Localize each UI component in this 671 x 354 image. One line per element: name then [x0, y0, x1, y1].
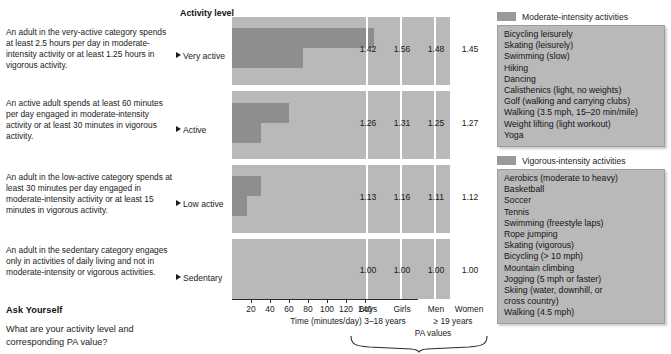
pa-value-low-active-men: 1.11	[423, 192, 449, 202]
list-item: Hiking	[504, 63, 659, 74]
pa-value-active-boys: 1.26	[355, 118, 381, 128]
pa-column-header-women: Women	[452, 304, 486, 314]
legend-moderate: Moderate-intensity activities	[497, 11, 628, 22]
activity-level-label: Low active	[183, 199, 224, 209]
figure-root: An adult in the very-active category spe…	[0, 0, 671, 354]
list-item: Walking (3.5 mph, 15–20 min/mile)	[504, 107, 659, 118]
pa-values-brace	[349, 335, 489, 353]
x-axis-line	[232, 299, 418, 300]
chart-band-very-active	[232, 17, 450, 85]
bar-vigorous-active	[232, 123, 261, 143]
x-axis-tick	[346, 299, 347, 303]
list-item: Swimming (slow)	[504, 51, 659, 62]
pa-group-header-youth: 3–18 years	[351, 316, 419, 326]
pa-column-header-girls: Girls	[385, 304, 419, 314]
description-very-active: An adult in the very-active category spe…	[6, 27, 174, 71]
list-item: Skating (leisurely)	[504, 40, 659, 51]
x-axis-tick	[308, 299, 309, 303]
description-sedentary: An adult in the sedentary category engag…	[6, 245, 174, 278]
list-item: cross country)	[504, 296, 659, 307]
list-item: Golf (walking and carrying clubs)	[504, 96, 659, 107]
pa-value-sedentary-girls: 1.00	[389, 265, 415, 275]
list-item: Skating (vigorous)	[504, 240, 659, 251]
triangle-right-icon	[176, 274, 181, 280]
pa-value-active-girls: 1.31	[389, 118, 415, 128]
pa-column-header-men: Men	[419, 304, 453, 314]
list-item: Walking (4.5 mph)	[504, 307, 659, 318]
pa-group-header-adult: ≥ 19 years	[419, 316, 487, 326]
activity-level-label: Very active	[183, 51, 225, 61]
pa-value-low-active-boys: 1.13	[355, 192, 381, 202]
legend-swatch-vigorous-icon	[497, 156, 516, 165]
pa-value-active-men: 1.25	[423, 118, 449, 128]
x-axis-tick	[270, 299, 271, 303]
list-item: Basketball	[504, 184, 659, 195]
description-low-active-text: An adult in the low-active category spen…	[6, 172, 174, 216]
activity-level-sedentary: Sedentary	[176, 272, 238, 283]
chart-band-active	[232, 91, 450, 159]
ask-yourself-question: What are your activity level and corresp…	[6, 323, 181, 349]
description-column: An adult in the very-active category spe…	[6, 0, 174, 354]
pa-value-active-women: 1.27	[457, 118, 483, 128]
activity-level-active: Active	[176, 124, 238, 135]
activity-level-label: Sedentary	[183, 273, 222, 283]
legend-vigorous: Vigorous-intensity activities	[497, 155, 626, 166]
list-item: Calisthenics (light, no weights)	[504, 85, 659, 96]
activity-level-low-active: Low active	[176, 198, 238, 209]
legend-swatch-moderate-icon	[497, 12, 516, 21]
pa-value-sedentary-women: 1.00	[457, 265, 483, 275]
moderate-activities-list: Bicycling leisurely Skating (leisurely) …	[497, 25, 665, 147]
x-axis-tick	[251, 299, 252, 303]
list-item: Aerobics (moderate to heavy)	[504, 173, 659, 184]
bar-moderate-low-active	[232, 176, 261, 196]
bar-moderate-active	[232, 103, 289, 123]
pa-value-very-active-boys: 1.42	[355, 44, 381, 54]
pa-value-low-active-women: 1.12	[457, 192, 483, 202]
list-item: Bicycling (> 10 mph)	[504, 251, 659, 262]
chart-band-low-active	[232, 165, 450, 233]
description-very-active-text: An adult in the very-active category spe…	[6, 27, 174, 71]
x-axis-tick	[289, 299, 290, 303]
description-active: An active adult spends at least 60 minut…	[6, 98, 174, 142]
chart-band-sedentary	[232, 239, 450, 299]
triangle-right-icon	[176, 52, 181, 58]
bar-vigorous-low-active	[232, 196, 247, 216]
list-item: Soccer	[504, 195, 659, 206]
activity-level-header: Activity level	[180, 8, 234, 19]
x-axis-tick	[365, 299, 366, 303]
activity-level-label: Active	[183, 125, 206, 135]
list-item: Skiing (water, downhill, or	[504, 285, 659, 296]
legend-moderate-label: Moderate-intensity activities	[522, 12, 628, 22]
pa-value-very-active-men: 1.48	[423, 44, 449, 54]
list-item: Mountain climbing	[504, 263, 659, 274]
list-item: Yoga	[504, 130, 659, 141]
bar-chart	[232, 17, 450, 299]
pa-column-header-boys: Boys	[351, 304, 385, 314]
bar-moderate-very-active	[232, 28, 374, 48]
list-item: Weight lifting (light workout)	[504, 119, 659, 130]
list-item: Dancing	[504, 74, 659, 85]
legend-vigorous-label: Vigorous-intensity activities	[522, 156, 626, 166]
triangle-right-icon	[176, 200, 181, 206]
x-axis-tick	[327, 299, 328, 303]
description-sedentary-text: An adult in the sedentary category engag…	[6, 245, 174, 278]
description-active-text: An active adult spends at least 60 minut…	[6, 98, 174, 142]
ask-yourself-title: Ask Yourself	[6, 305, 174, 315]
list-item: Swimming (freestyle laps)	[504, 218, 659, 229]
bar-vigorous-very-active	[232, 48, 303, 68]
activity-level-very-active: Very active	[176, 50, 238, 61]
list-item: Jogging (5 mph or faster)	[504, 274, 659, 285]
pa-value-low-active-girls: 1.16	[389, 192, 415, 202]
description-low-active: An adult in the low-active category spen…	[6, 172, 174, 216]
triangle-right-icon	[176, 126, 181, 132]
list-item: Bicycling leisurely	[504, 29, 659, 40]
list-item: Rope jumping	[504, 229, 659, 240]
list-item: Tennis	[504, 207, 659, 218]
pa-value-very-active-girls: 1.56	[389, 44, 415, 54]
pa-value-sedentary-men: 1.00	[423, 265, 449, 275]
pa-value-sedentary-boys: 1.00	[355, 265, 381, 275]
vigorous-activities-list: Aerobics (moderate to heavy) Basketball …	[497, 169, 665, 324]
pa-value-very-active-women: 1.45	[457, 44, 483, 54]
